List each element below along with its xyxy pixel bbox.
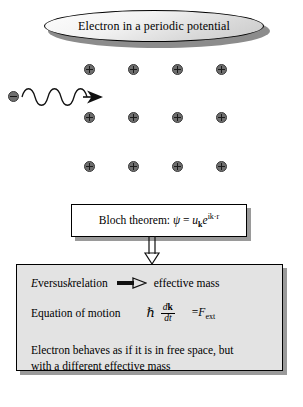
positive-ion-icon (216, 112, 227, 123)
ion-lattice (0, 58, 303, 183)
equation-of-motion-label: Equation of motion (31, 307, 120, 319)
positive-ion-icon (172, 161, 183, 172)
positive-ion-icon (84, 161, 95, 172)
bloch-theorem-box: Bloch theorem: ψ = ukeik·r (71, 204, 247, 237)
e-versus-k-row: E versus k relation effective mass (31, 277, 268, 289)
summary-line-1: Electron behaves as if it is in free spa… (31, 343, 268, 359)
effective-mass-text: effective mass (154, 277, 220, 289)
summary-text: Electron behaves as if it is in free spa… (31, 343, 268, 375)
positive-ion-icon (84, 112, 95, 123)
periodic-potential-figure: Electron in a periodic potential Bloch t… (0, 0, 303, 407)
implies-arrow-icon (117, 277, 147, 289)
summary-line-2: with a different effective mass (31, 359, 268, 375)
versus-text: versus (38, 277, 67, 289)
positive-ion-icon (128, 64, 139, 75)
relation-text: relation (73, 277, 108, 289)
page-title: Electron in a periodic potential (78, 19, 230, 34)
equation-of-motion-row: Equation of motion ℏ dk dt =Fext (31, 303, 268, 324)
bloch-label: Bloch theorem: (99, 214, 170, 226)
positive-ion-icon (128, 112, 139, 123)
electron-wave-icon (21, 84, 105, 110)
equation-right-side: =Fext (192, 306, 215, 321)
force-subscript: ext (205, 312, 215, 321)
hbar-symbol: ℏ (146, 305, 154, 321)
title-ellipse: Electron in a periodic potential (44, 10, 264, 42)
effective-mass-box: E versus k relation effective mass Equat… (16, 264, 283, 371)
positive-ion-icon (216, 161, 227, 172)
exponent-ikr: ik·r (208, 212, 220, 221)
energy-symbol: E (31, 277, 38, 289)
positive-ion-icon (128, 161, 139, 172)
bloch-theorem-formula: Bloch theorem: ψ = ukeik·r (99, 212, 219, 229)
equals-sign: = (180, 214, 192, 226)
electron-icon (8, 91, 19, 102)
positive-ion-icon (172, 112, 183, 123)
title-ellipse-group: Electron in a periodic potential (44, 10, 266, 44)
dk-dt-fraction: dk dt (161, 303, 175, 324)
positive-ion-icon (216, 64, 227, 75)
fraction-denominator: dt (161, 314, 175, 324)
positive-ion-icon (84, 64, 95, 75)
psi-symbol: ψ (173, 214, 180, 226)
connector-arrow-icon (143, 236, 161, 265)
k-vector-symbol: k (168, 302, 173, 312)
positive-ion-icon (172, 64, 183, 75)
electron-wave-group (8, 84, 108, 110)
